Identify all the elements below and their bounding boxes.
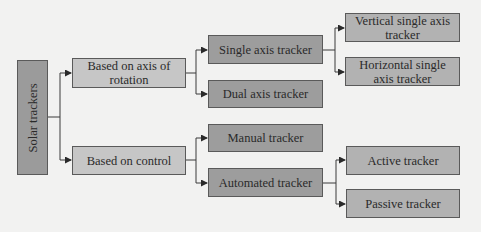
node-based-on-control: Based on control <box>72 146 186 175</box>
node-dual-axis-tracker: Dual axis tracker <box>208 80 323 108</box>
node-active-tracker: Active tracker <box>346 146 460 175</box>
node-automated-tracker: Automated tracker <box>208 168 323 197</box>
node-label: Active tracker <box>367 154 438 168</box>
node-vertical-single-axis-tracker: Vertical single axis tracker <box>345 13 460 42</box>
node-label: Single axis tracker <box>219 43 312 57</box>
node-label: Vertical single axis tracker <box>349 14 456 42</box>
node-label: Based on control <box>87 154 172 168</box>
node-horizontal-single-axis-tracker: Horizontal single axis tracker <box>345 57 460 86</box>
node-passive-tracker: Passive tracker <box>346 189 460 218</box>
node-label: Solar trackers <box>26 83 40 152</box>
node-solar-trackers: Solar trackers <box>17 60 48 175</box>
node-based-on-axis-of-rotation: Based on axis of rotation <box>72 58 186 88</box>
node-label: Automated tracker <box>219 176 312 190</box>
node-label: Based on axis of rotation <box>76 59 182 87</box>
node-manual-tracker: Manual tracker <box>208 124 323 152</box>
node-label: Passive tracker <box>365 197 440 211</box>
node-single-axis-tracker: Single axis tracker <box>208 35 323 64</box>
node-label: Manual tracker <box>227 131 303 145</box>
solar-tracker-classification-diagram: Solar trackers Based on axis of rotation… <box>0 0 481 232</box>
node-label: Horizontal single axis tracker <box>349 58 456 86</box>
node-label: Dual axis tracker <box>223 87 308 101</box>
